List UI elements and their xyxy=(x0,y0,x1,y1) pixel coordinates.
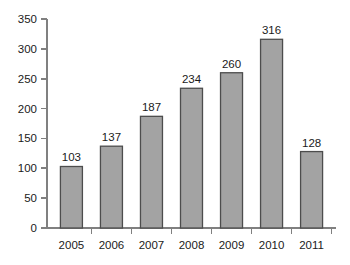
y-tick-label: 350 xyxy=(18,13,37,25)
bar-value-label-2010: 316 xyxy=(262,24,281,36)
x-axis-ticks xyxy=(91,228,331,234)
chart-canvas: 050100150200250300350 103137187234260316… xyxy=(0,0,350,265)
x-tick-label-2007: 2007 xyxy=(139,239,165,251)
bar-value-label-2011: 128 xyxy=(302,137,321,149)
bar-2007[interactable] xyxy=(140,116,162,228)
bar-chart: 050100150200250300350 103137187234260316… xyxy=(0,0,350,265)
y-axis-group: 050100150200250300350 xyxy=(18,13,47,234)
y-tick-label: 150 xyxy=(18,132,37,144)
x-axis-group xyxy=(47,228,336,234)
bar-2005[interactable] xyxy=(60,166,82,228)
bar-2006[interactable] xyxy=(100,146,122,228)
bar-value-label-2007: 187 xyxy=(142,101,161,113)
bar-value-label-2009: 260 xyxy=(222,58,241,70)
bar-value-label-2008: 234 xyxy=(182,73,202,85)
y-tick-label: 0 xyxy=(31,222,37,234)
y-tick-label: 250 xyxy=(18,73,37,85)
bar-value-label-2006: 137 xyxy=(102,131,121,143)
bar-value-label-2005: 103 xyxy=(62,151,81,163)
x-tick-label-2008: 2008 xyxy=(179,239,205,251)
bar-2010[interactable] xyxy=(261,39,283,228)
x-tick-label-2006: 2006 xyxy=(99,239,125,251)
y-tick-label: 100 xyxy=(18,162,37,174)
bar-2008[interactable] xyxy=(181,88,203,228)
y-axis-ticks: 050100150200250300350 xyxy=(18,13,47,234)
y-tick-label: 200 xyxy=(18,103,37,115)
x-tick-label-2010: 2010 xyxy=(259,239,285,251)
bar-2011[interactable] xyxy=(301,152,323,228)
bars-group xyxy=(60,39,322,228)
x-tick-label-2005: 2005 xyxy=(59,239,85,251)
y-tick-label: 50 xyxy=(24,192,37,204)
bar-2009[interactable] xyxy=(221,73,243,228)
x-tick-label-2011: 2011 xyxy=(299,239,324,251)
y-tick-label: 300 xyxy=(18,43,37,55)
x-tick-label-2009: 2009 xyxy=(219,239,245,251)
x-axis-labels-group: 2005200620072008200920102011 xyxy=(59,239,324,251)
